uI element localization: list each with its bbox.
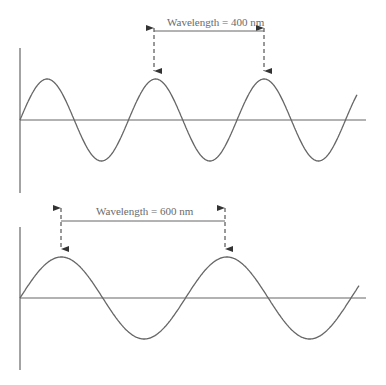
wavelength-label-400nm: Wavelength = 400 nm (167, 16, 264, 28)
wavelength-label-600nm: Wavelength = 600 nm (96, 205, 193, 217)
wave-diagram (0, 0, 386, 385)
wave-panel-600nm (20, 208, 366, 370)
wave-panel-400nm (20, 28, 366, 193)
